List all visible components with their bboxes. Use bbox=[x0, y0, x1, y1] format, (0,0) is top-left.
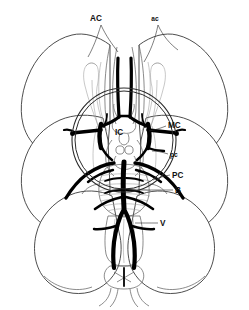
label-internal-carotid: IC bbox=[115, 128, 123, 137]
label-vertebral: V bbox=[160, 219, 166, 228]
label-anterior-communicating: ac bbox=[151, 15, 159, 22]
mammillary-body-left bbox=[116, 146, 124, 154]
spinal-cord-right-edge bbox=[137, 288, 149, 306]
label-basilar: B bbox=[175, 186, 181, 195]
internal-carotid-artery-left bbox=[100, 124, 102, 148]
spinal-cord-midline-2 bbox=[130, 289, 138, 307]
decussation-cross-right bbox=[117, 272, 134, 282]
anterior-cerebral-artery-right bbox=[130, 58, 131, 117]
brain-ventral-view-diagram: AC ac IC MC pc PC B V bbox=[0, 0, 249, 310]
anatomy-figure: AC ac IC MC pc PC B V bbox=[0, 0, 249, 310]
anterior-cerebral-artery-left bbox=[118, 58, 119, 117]
label-middle-cerebral: MC bbox=[168, 121, 181, 130]
decussation-cross-left bbox=[114, 272, 131, 282]
label-posterior-cerebral: PC bbox=[172, 171, 183, 180]
spinal-cord-midline bbox=[110, 289, 118, 307]
internal-carotid-artery-right bbox=[148, 124, 150, 148]
basilar-artery bbox=[123, 162, 124, 208]
spinal-cord-left-edge bbox=[99, 288, 111, 306]
label-anterior-cerebral: AC bbox=[90, 14, 102, 23]
mammillary-body-right bbox=[125, 146, 133, 154]
lens-node-left bbox=[70, 132, 75, 136]
label-posterior-communicating: pc bbox=[170, 151, 178, 159]
lens-node-right bbox=[174, 132, 179, 136]
medulla-midline-sulcus bbox=[123, 219, 124, 263]
